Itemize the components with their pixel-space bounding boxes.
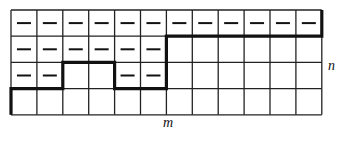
label-m: m — [163, 115, 173, 131]
label-n: n — [328, 58, 335, 74]
